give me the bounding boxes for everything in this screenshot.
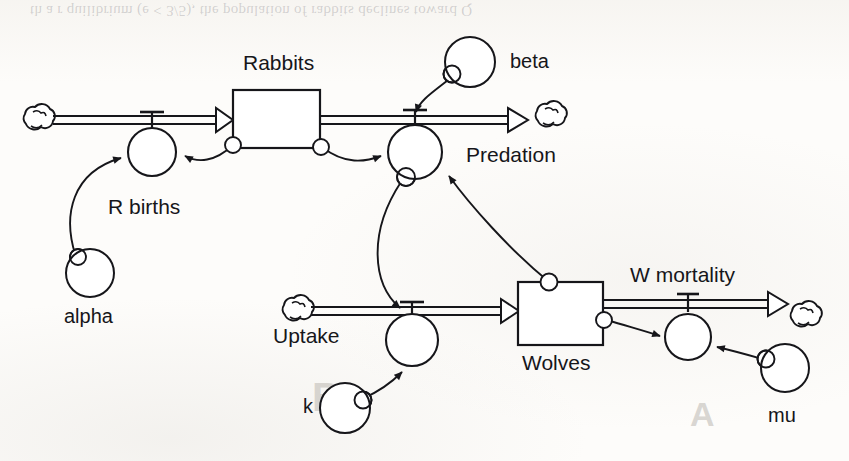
port-rabbits-inflow [225, 137, 241, 153]
cloud-uptake [283, 295, 314, 320]
link-predation-to-uptake [378, 182, 401, 308]
link-wolves-to-w-mortality [607, 320, 660, 336]
stock-wolves[interactable] [518, 282, 603, 345]
converter-label-beta: beta [510, 51, 549, 71]
converter-beta[interactable] [445, 37, 495, 87]
port-wolves-outflow [596, 312, 612, 328]
diagram-canvas: th a r quilibrium (e < 3/5), the populat… [0, 0, 849, 461]
converter-label-alpha: alpha [64, 306, 113, 326]
valve-predation[interactable] [388, 110, 442, 179]
stock-label-wolves: Wolves [522, 352, 590, 373]
converter-alpha[interactable] [66, 249, 114, 297]
converter-label-k: k [303, 396, 313, 416]
valve-r-births[interactable] [128, 112, 176, 176]
port-wolves-top [541, 274, 558, 291]
flow-label-predation: Predation [466, 144, 556, 165]
stock-rabbits[interactable] [233, 90, 320, 148]
cloud-far-right [791, 301, 822, 326]
cloud-right [536, 101, 567, 126]
stock-flow-svg [0, 0, 849, 461]
link-wolves-to-predation [449, 176, 548, 281]
flow-label-w-mortality: W mortality [630, 264, 735, 285]
valve-uptake[interactable] [386, 302, 438, 366]
converter-label-mu: mu [768, 405, 796, 425]
flow-label-r-births: R births [108, 196, 180, 217]
cloud-left [24, 104, 55, 129]
link-beta-to-predation [416, 77, 452, 112]
stock-label-rabbits: Rabbits [243, 52, 314, 73]
port-rabbits-outflow [313, 139, 329, 155]
valve-w-mortality[interactable] [665, 294, 711, 360]
flow-label-uptake: Uptake [273, 325, 340, 346]
link-rabbits-to-predation [322, 147, 381, 161]
flow-pipe-w-mortality [603, 292, 788, 316]
